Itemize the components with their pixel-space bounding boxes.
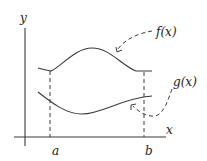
g-label: g(x) <box>173 75 197 89</box>
bound-a-label: a <box>52 144 59 158</box>
y-axis-label: y <box>19 11 27 25</box>
f-curve <box>38 48 152 71</box>
f-label: f(x) <box>155 25 177 39</box>
bound-b-label: b <box>145 144 153 158</box>
g-curve <box>38 92 152 114</box>
x-axis-label: x <box>166 123 173 137</box>
area-between-curves-diagram: y x a b f(x) g(x) <box>0 0 207 161</box>
g-pointer-arrow <box>133 89 172 116</box>
f-pointer-arrow <box>118 31 152 49</box>
